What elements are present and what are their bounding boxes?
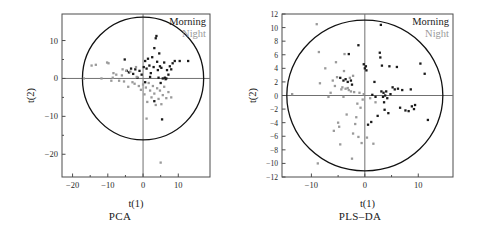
figure-container: −20−10010100−10−20MorningNightt(1)t(2) P… — [0, 0, 481, 234]
data-point — [387, 112, 389, 114]
data-point — [157, 98, 159, 100]
data-point — [162, 94, 164, 96]
data-point — [324, 67, 326, 69]
data-point — [150, 72, 152, 74]
data-point — [391, 86, 393, 88]
data-point — [381, 64, 383, 66]
data-point — [134, 68, 136, 70]
data-point — [153, 100, 155, 102]
data-point — [419, 62, 421, 64]
data-point — [394, 88, 396, 90]
data-point — [152, 66, 154, 68]
data-point — [155, 104, 157, 106]
x-tick-label: −10 — [101, 180, 114, 190]
data-point — [165, 97, 167, 99]
data-point — [372, 143, 374, 145]
data-point — [123, 80, 125, 82]
data-point — [127, 86, 129, 88]
plsda-caption: PLS–DA — [240, 210, 480, 222]
data-point — [364, 67, 366, 69]
data-point — [353, 91, 355, 93]
data-point — [152, 85, 154, 87]
data-point — [365, 65, 367, 67]
data-point — [399, 107, 401, 109]
data-point — [151, 56, 153, 58]
data-point — [144, 60, 146, 62]
y-tick-label: −12 — [266, 173, 278, 182]
data-point — [334, 85, 336, 87]
data-point — [163, 86, 165, 88]
data-point — [90, 64, 92, 66]
panel-plsda: −10010121086420−2−4−6−8−10−12MorningNigh… — [240, 0, 480, 234]
data-point — [319, 82, 321, 84]
data-point — [147, 58, 149, 60]
y-axis-title: t(2) — [25, 87, 37, 103]
data-point — [350, 79, 352, 81]
y-tick-label: 8 — [274, 37, 278, 46]
data-point — [360, 142, 362, 144]
data-point — [371, 94, 373, 96]
data-point — [149, 76, 151, 78]
data-point — [112, 72, 114, 74]
y-tick-label: 10 — [270, 24, 278, 33]
x-tick-label: −10 — [305, 180, 318, 190]
data-point — [352, 132, 354, 134]
data-point — [335, 61, 337, 63]
data-point — [132, 73, 134, 75]
data-point — [366, 136, 368, 138]
data-point — [350, 90, 352, 92]
data-point — [142, 83, 144, 85]
data-point — [342, 96, 344, 98]
data-point — [367, 124, 369, 126]
data-point — [354, 123, 356, 125]
data-point — [163, 61, 165, 63]
data-point — [115, 74, 117, 76]
data-point — [155, 35, 157, 37]
data-point — [337, 122, 339, 124]
data-point — [407, 110, 409, 112]
data-point — [148, 64, 150, 66]
data-point — [162, 77, 164, 79]
data-point — [339, 77, 341, 79]
data-point — [349, 77, 351, 79]
data-point — [159, 89, 161, 91]
data-point — [386, 97, 388, 99]
x-tick-label: 0 — [141, 180, 145, 190]
data-point — [413, 108, 415, 110]
data-point — [370, 121, 372, 123]
data-point — [380, 90, 382, 92]
y-tick-label: 6 — [274, 51, 278, 60]
data-point — [144, 81, 146, 83]
data-point — [344, 78, 346, 80]
data-point — [318, 51, 320, 53]
data-point — [143, 93, 145, 95]
legend-label-night: Night — [182, 28, 206, 39]
data-point — [160, 161, 162, 163]
data-point — [118, 80, 120, 82]
data-point — [336, 76, 338, 78]
data-point — [125, 70, 127, 72]
data-point — [363, 93, 365, 95]
data-point — [404, 109, 406, 111]
data-point — [389, 93, 391, 95]
data-point — [359, 107, 361, 109]
data-point — [351, 83, 353, 85]
data-point — [167, 74, 169, 76]
data-point — [377, 115, 379, 117]
legend-label-morning: Morning — [412, 16, 450, 27]
data-point — [170, 96, 172, 98]
y-tick-label: 12 — [270, 10, 278, 19]
data-point — [160, 103, 162, 105]
pca-scatter-plot: −20−10010100−10−20MorningNightt(1)t(2) — [0, 0, 240, 234]
legend-label-night: Night — [425, 28, 449, 39]
data-point — [167, 91, 169, 93]
data-point — [149, 89, 151, 91]
data-point — [339, 143, 341, 145]
y-tick-label: 2 — [274, 78, 278, 87]
y-tick-label: 4 — [274, 64, 278, 73]
data-point — [374, 101, 376, 103]
data-point — [365, 69, 367, 71]
data-point — [351, 158, 353, 160]
data-point — [153, 92, 155, 94]
data-point — [410, 88, 412, 90]
